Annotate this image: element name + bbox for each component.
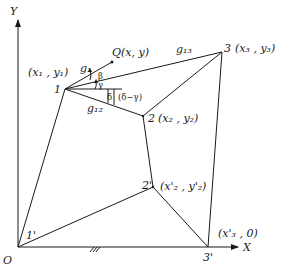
point-2p — [152, 186, 154, 188]
edge-g1-label: g₁ — [80, 62, 91, 75]
gamma-label: γ — [98, 80, 103, 90]
point-q-coord: Q(x, y) — [112, 46, 149, 59]
ground-hatch-icon — [90, 247, 100, 252]
point-3p-coord: (x'₃ , 0) — [218, 227, 258, 240]
point-2 — [142, 115, 144, 117]
link-3-3p — [208, 52, 222, 247]
link-O-1 — [18, 89, 65, 247]
x-axis-label: X — [242, 241, 252, 254]
kinematic-diagram: Y X O 1 (x₁ , y₁) Q(x, y) 3(x₃ , y₃) 2(x… — [0, 0, 285, 269]
point-2-label: 2(x₂ , y₂) — [147, 112, 198, 125]
delta-minus-gamma-label: (δ−γ) — [118, 92, 142, 102]
point-1-id: 1 — [54, 83, 61, 96]
delta-label: δ — [107, 92, 112, 102]
edge-g12-label: g₁₂ — [87, 102, 103, 115]
point-q — [111, 61, 114, 64]
y-axis-label: Y — [10, 5, 19, 18]
point-2p-id: 2' — [141, 179, 152, 192]
point-2p-coord: (x'₂ , y'₂) — [160, 180, 206, 193]
link-2p-3p — [153, 187, 208, 247]
point-1p-id: 1' — [26, 229, 36, 242]
point-3-label: 3(x₃ , y₃) — [224, 42, 275, 55]
origin-label: O — [3, 254, 12, 267]
link-2-2p — [143, 116, 153, 187]
point-3p-id: 3' — [203, 251, 213, 264]
edge-g13-label: g₁₃ — [176, 43, 192, 56]
point-1-coord: (x₁ , y₁) — [28, 66, 68, 79]
link-O-2p — [18, 187, 153, 247]
